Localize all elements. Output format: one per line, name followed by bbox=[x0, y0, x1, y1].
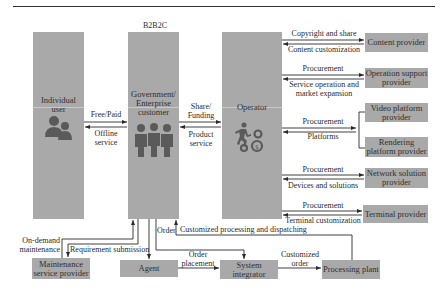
video-platform-provider-box: Video platform provider bbox=[365, 103, 428, 122]
network-solution-provider-box: Network solution provider bbox=[365, 168, 428, 188]
order-placement-label: Order placement bbox=[180, 251, 216, 268]
free-paid-label: Free/Paid bbox=[86, 111, 126, 120]
svg-text:$: $ bbox=[255, 143, 259, 150]
business-people-icon bbox=[133, 123, 175, 157]
government-enterprise-box: Government/ Enterprise customer bbox=[128, 32, 179, 219]
processing-plant-box: Processing plant bbox=[322, 260, 380, 279]
individual-user-label: Individual user bbox=[33, 96, 84, 114]
order-label: Order bbox=[157, 227, 177, 236]
operation-support-provider-box: Operation support provider bbox=[365, 68, 428, 88]
rendering-platform-provider-box: Rendering platform provider bbox=[365, 137, 428, 157]
government-enterprise-label: Government/ Enterprise customer bbox=[128, 90, 179, 117]
offline-service-label: Offline service bbox=[88, 130, 124, 147]
individual-user-box: Individual user bbox=[33, 32, 84, 219]
procurement-platform-label: Procurement bbox=[290, 118, 356, 127]
runner-gears-icon: $ bbox=[235, 122, 267, 154]
operator-box: Operator $ bbox=[222, 32, 282, 219]
operator-label: Operator bbox=[222, 103, 282, 112]
platforms-label: Platforms bbox=[290, 133, 356, 142]
content-provider-box: Content provider bbox=[365, 33, 428, 52]
procurement-network-label: Procurement bbox=[290, 166, 356, 175]
customized-processing-label: Customized processing and dispatching bbox=[180, 226, 320, 235]
content-customization-label: Content customization bbox=[284, 46, 364, 55]
requirement-submission-label: Requirement submission bbox=[70, 246, 150, 255]
copyright-share-label: Copyright and share bbox=[285, 30, 363, 39]
maintenance-service-provider-box: Maintenance service provider bbox=[32, 258, 90, 279]
devices-solutions-label: Devices and solutions bbox=[283, 182, 363, 191]
product-service-label: Product service bbox=[182, 131, 220, 148]
customized-order-label: Customized order bbox=[280, 251, 320, 268]
agent-box: Agent bbox=[120, 260, 178, 277]
service-operation-label: Service operation and market expansion bbox=[284, 81, 364, 98]
terminal-provider-box: Terminal provider bbox=[363, 205, 428, 223]
users-icon bbox=[44, 115, 74, 140]
share-funding-label: Share/ Funding bbox=[184, 103, 218, 120]
system-integrator-box: System integrator bbox=[220, 260, 278, 279]
on-demand-maintenance-label: On-demand maintenance bbox=[14, 237, 60, 254]
procurement-operation-label: Procurement bbox=[290, 65, 356, 74]
procurement-terminal-label: Procurement bbox=[290, 202, 356, 211]
model-label: B2B2C bbox=[138, 22, 172, 31]
business-model-diagram: B2B2C Individual user Government/ Enterp… bbox=[0, 0, 445, 293]
